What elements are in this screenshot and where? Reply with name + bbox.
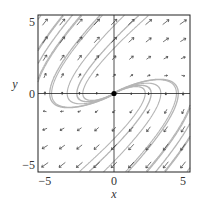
direction-arrow: [95, 127, 99, 130]
direction-arrow: [76, 162, 82, 167]
direction-arrow: [164, 56, 168, 59]
direction-arrow: [181, 126, 185, 132]
direction-arrow: [163, 20, 169, 25]
direction-arrow: [182, 109, 185, 114]
direction-arrow: [130, 75, 133, 77]
direction-arrow: [180, 20, 187, 25]
direction-arrow: [59, 145, 64, 149]
direction-arrow: [60, 128, 64, 131]
direction-arrow: [145, 20, 151, 25]
direction-arrow: [43, 55, 47, 61]
x-axis-label: x: [110, 187, 117, 201]
trajectory-6: [165, 136, 190, 171]
direction-arrow: [94, 145, 99, 150]
direction-arrow: [77, 128, 81, 131]
direction-arrow: [42, 163, 49, 168]
direction-arrow: [164, 75, 167, 77]
x-tick-label: −5: [39, 174, 52, 188]
direction-arrow: [78, 55, 82, 60]
direction-arrow: [147, 109, 149, 113]
direction-arrow: [44, 73, 47, 78]
direction-arrow: [130, 110, 132, 113]
direction-arrow: [147, 75, 150, 77]
direction-arrow: [94, 162, 100, 167]
direction-arrow: [180, 38, 185, 42]
equilibrium-point: [111, 91, 116, 96]
direction-arrow: [42, 19, 47, 25]
direction-arrow: [78, 111, 81, 113]
y-tick-label: −5: [22, 158, 35, 172]
direction-arrow: [61, 111, 64, 113]
trajectory-10: [77, 16, 139, 102]
x-tick-label: 5: [180, 174, 186, 188]
x-tick-label: 0: [111, 174, 117, 188]
y-tick-label: 0: [29, 87, 35, 101]
tick-labels: −505−505: [22, 15, 186, 188]
y-tick-label: 5: [29, 15, 35, 29]
direction-arrow: [61, 74, 64, 78]
direction-arrow: [181, 56, 185, 58]
direction-arrow: [163, 38, 168, 42]
direction-arrow: [181, 144, 186, 151]
direction-arrow: [43, 110, 46, 112]
direction-arrow: [146, 56, 150, 59]
direction-arrow: [42, 145, 47, 149]
direction-arrow: [95, 74, 97, 77]
direction-arrow: [181, 75, 184, 77]
direction-arrow: [128, 19, 134, 24]
direction-arrow: [181, 162, 186, 168]
direction-arrow: [59, 162, 65, 167]
trajectory-11: [89, 85, 151, 171]
direction-arrow: [43, 37, 48, 44]
phase-portrait-chart: −505−505 x y: [0, 0, 199, 208]
direction-arrow: [43, 128, 47, 130]
direction-arrow: [77, 145, 82, 149]
direction-arrow: [129, 38, 134, 43]
y-axis-label: y: [11, 77, 18, 91]
direction-arrow: [147, 127, 151, 132]
direction-arrow: [129, 56, 133, 59]
direction-arrow: [95, 110, 98, 112]
trajectory-8: [156, 124, 190, 172]
trajectory-1: [38, 16, 63, 51]
direction-arrow: [146, 38, 151, 42]
direction-arrow: [78, 74, 80, 78]
direction-arrow: [164, 109, 167, 113]
trajectory-3: [38, 15, 72, 63]
